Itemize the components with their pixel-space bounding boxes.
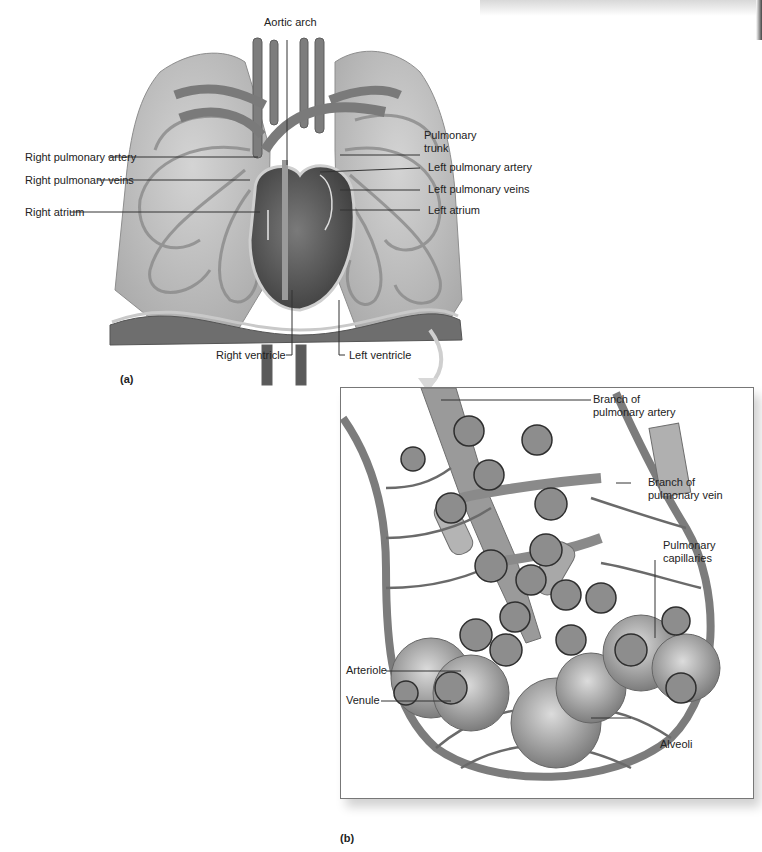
- label-left-pulmonary-artery: Left pulmonary artery: [428, 161, 532, 174]
- label-right-pulmonary-artery: Right pulmonary artery: [25, 151, 136, 164]
- label-pulmonary-capillaries-2: capillaries: [663, 552, 712, 565]
- label-branch-pulmonary-artery-2: pulmonary artery: [593, 406, 676, 419]
- label-right-atrium: Right atrium: [25, 206, 84, 219]
- label-pulmonary-trunk-1: Pulmonary: [424, 129, 477, 142]
- label-pulmonary-trunk-2: trunk: [424, 142, 448, 155]
- heart: [250, 166, 354, 310]
- label-venule: Venule: [346, 694, 380, 707]
- label-branch-pulmonary-vein-1: Branch of: [648, 476, 695, 489]
- panel-a-letter: (a): [120, 373, 133, 385]
- label-arteriole: Arteriole: [346, 664, 387, 677]
- label-left-ventricle: Left ventricle: [349, 349, 411, 362]
- label-left-atrium: Left atrium: [428, 204, 480, 217]
- panel-b-letter: (b): [340, 832, 354, 844]
- label-right-ventricle: Right ventricle: [216, 349, 286, 362]
- label-right-pulmonary-veins: Right pulmonary veins: [25, 174, 134, 187]
- label-branch-pulmonary-vein-2: pulmonary vein: [648, 489, 723, 502]
- alveoli-capillary-illustration: [341, 388, 753, 798]
- label-pulmonary-capillaries-1: Pulmonary: [663, 539, 716, 552]
- label-alveoli: Alveoli: [660, 738, 692, 751]
- label-branch-pulmonary-artery-1: Branch of: [593, 393, 640, 406]
- label-aortic-arch: Aortic arch: [264, 16, 317, 29]
- label-left-pulmonary-veins: Left pulmonary veins: [428, 183, 530, 196]
